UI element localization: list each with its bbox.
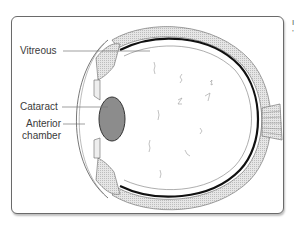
eye-diagram [0,0,298,227]
label-anterior-line1: Anterior [18,118,61,130]
label-cataract: Cataract [20,101,58,113]
vitreous-floaters [149,62,213,178]
retina [120,39,258,197]
edge-glyph-2: ’ [292,28,294,38]
edge-text: I ’ [292,18,294,38]
label-vitreous: Vitreous [20,45,57,57]
lens-cataract [99,97,125,141]
edge-glyph-1: I [292,18,294,28]
label-anterior-chamber: Anterior chamber [18,118,61,142]
label-anterior-line2: chamber [18,130,61,142]
sclera [112,27,271,210]
optic-nerve [262,104,282,140]
